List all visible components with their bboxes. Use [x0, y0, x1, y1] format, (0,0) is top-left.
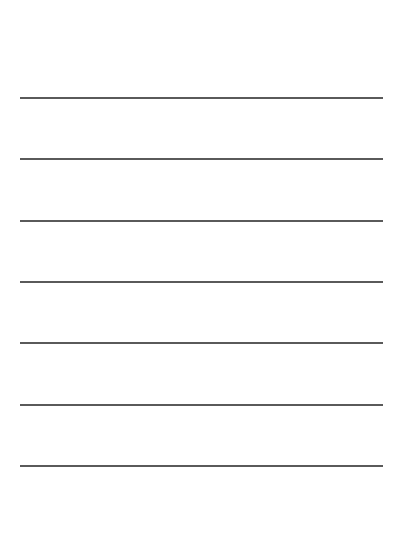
lined-paper-sheet [0, 0, 402, 540]
ruled-line [20, 404, 383, 406]
ruled-line [20, 97, 383, 99]
ruled-line [20, 281, 383, 283]
ruled-line [20, 220, 383, 222]
ruled-line [20, 342, 383, 344]
ruled-line [20, 465, 383, 467]
ruled-line [20, 158, 383, 160]
